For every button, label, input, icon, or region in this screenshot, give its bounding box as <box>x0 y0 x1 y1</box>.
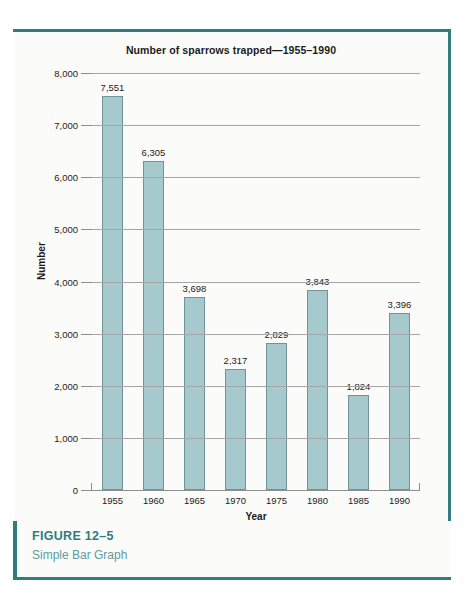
plot-area: 7,55119556,30519603,69819652,31719702,82… <box>92 73 420 490</box>
x-axis-tick-label: 1965 <box>184 495 205 506</box>
x-axis-tick-label: 1975 <box>266 495 287 506</box>
y-axis-tick-label: 8,000 <box>54 68 78 79</box>
bar-value-label: 6,305 <box>142 147 166 158</box>
bar[interactable] <box>225 369 246 490</box>
y-axis-tick <box>81 229 92 230</box>
y-axis-tick-label: 0 <box>73 485 78 496</box>
y-axis-tick-label: 5,000 <box>54 224 78 235</box>
x-axis-tick-label: 1970 <box>225 495 246 506</box>
bar-value-label: 2,317 <box>224 355 248 366</box>
y-axis-tick-label: 2,000 <box>54 380 78 391</box>
gridline <box>92 438 420 439</box>
bar-value-label: 3,698 <box>183 283 207 294</box>
y-axis-tick <box>81 282 92 283</box>
gridline <box>92 282 420 283</box>
y-axis-title: Number <box>36 242 47 280</box>
bar-value-label: 3,396 <box>388 299 412 310</box>
frame-right-rule <box>448 29 451 580</box>
bar[interactable] <box>348 395 369 490</box>
y-axis-tick <box>81 386 92 387</box>
caption-bottom-rule <box>13 577 451 580</box>
y-axis-tick-label: 3,000 <box>54 328 78 339</box>
gridline <box>92 386 420 387</box>
gridline <box>92 73 420 74</box>
figure-caption-text: Simple Bar Graph <box>32 548 127 562</box>
y-axis-tick-label: 4,000 <box>54 276 78 287</box>
x-axis-tick-label: 1990 <box>389 495 410 506</box>
chart-title: Number of sparrows trapped—1955–1990 <box>14 44 448 56</box>
y-axis-tick <box>81 73 92 74</box>
y-axis-tick-label: 1,000 <box>54 432 78 443</box>
gridline <box>92 334 420 335</box>
axis-left-cap <box>91 483 92 491</box>
caption-accent-bar <box>13 521 17 580</box>
gridline <box>92 177 420 178</box>
figure-label: FIGURE 12–5 <box>32 529 114 543</box>
figure-page: Number of sparrows trapped—1955–1990 Num… <box>0 0 464 608</box>
x-axis-tick-label: 1960 <box>143 495 164 506</box>
y-axis-tick <box>81 177 92 178</box>
x-axis-tick-label: 1985 <box>348 495 369 506</box>
x-axis-tick-label: 1980 <box>307 495 328 506</box>
bar[interactable] <box>184 297 205 490</box>
gridline <box>92 229 420 230</box>
bar[interactable] <box>143 161 164 490</box>
bar[interactable] <box>389 313 410 490</box>
y-axis-tick-label: 7,000 <box>54 120 78 131</box>
axis-right-cap <box>419 483 420 491</box>
gridline <box>92 490 420 491</box>
y-axis-tick <box>81 438 92 439</box>
gridline <box>92 125 420 126</box>
bar-value-label: 7,551 <box>101 82 125 93</box>
bar[interactable] <box>307 290 328 490</box>
x-axis-tick-label: 1955 <box>102 495 123 506</box>
y-axis-tick <box>81 334 92 335</box>
bar[interactable] <box>102 96 123 490</box>
y-axis-tick-label: 6,000 <box>54 172 78 183</box>
chart-card: Number of sparrows trapped—1955–1990 Num… <box>14 32 448 521</box>
y-axis-tick <box>81 125 92 126</box>
bar[interactable] <box>266 343 287 490</box>
